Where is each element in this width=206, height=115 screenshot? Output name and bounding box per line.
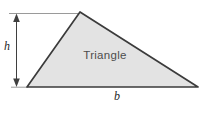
height-label: h: [4, 39, 10, 53]
triangle-diagram: h b Triangle: [0, 0, 206, 115]
arrow-up-icon: [13, 14, 20, 23]
base-label: b: [114, 89, 120, 103]
arrow-down-icon: [13, 79, 20, 88]
triangle-diagram-svg: h b Triangle: [0, 0, 206, 115]
shape-name-label: Triangle: [83, 49, 127, 61]
